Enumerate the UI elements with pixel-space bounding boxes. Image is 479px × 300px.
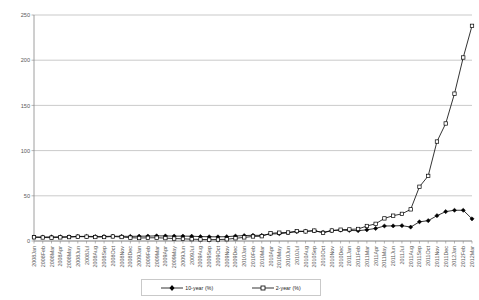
x-axis-tick-label: 2009Oct [215, 246, 221, 267]
x-axis-tick-label: 2008Apr [57, 246, 63, 267]
x-axis-tick-label: 2008May [66, 246, 72, 268]
x-axis-tick-label: 2011Oct [425, 246, 431, 266]
x-axis-tick-label: 2009May [171, 246, 177, 268]
x-axis-tick-label: 2009Dec [232, 246, 238, 268]
data-point-marker [321, 231, 324, 234]
x-axis-tick-label: 2008Sep [101, 246, 107, 268]
data-point-marker [146, 236, 149, 239]
data-point-marker [199, 238, 202, 241]
x-axis-tick-label: 2011Jun [390, 246, 396, 266]
data-point-marker [225, 238, 228, 241]
data-point-marker [409, 208, 412, 211]
x-axis-tick-label: 2010Aug [303, 246, 309, 268]
x-axis-tick-label: 2008Jun [75, 246, 81, 267]
data-point-marker [85, 235, 88, 238]
x-axis-tick-label: 2010May [276, 246, 282, 268]
x-axis-tick-label: 2011Aug [408, 246, 414, 267]
y-axis-tick-label: 100 [21, 148, 30, 154]
data-point-marker [234, 237, 237, 240]
x-axis-tick-label: 2010Apr [268, 246, 274, 267]
data-point-marker [444, 122, 447, 125]
data-point-marker [190, 237, 193, 240]
x-axis-tick-label: 2010Sep [311, 246, 317, 268]
data-point-marker [94, 235, 97, 238]
data-point-marker [120, 235, 123, 238]
x-axis-tick-label: 2008Mar [49, 246, 55, 267]
x-axis-tick-label: 2012Jan [451, 246, 457, 267]
data-point-marker [59, 236, 62, 239]
data-point-marker [304, 230, 307, 233]
legend-item-2-year[interactable]: 2-year (%) [252, 284, 301, 292]
data-point-marker [453, 92, 456, 95]
x-axis-tick-label: 2010Jan [241, 246, 247, 267]
x-axis-tick-label: 2009Nov [224, 246, 230, 268]
x-axis-tick-label: 2011Dec [443, 246, 449, 267]
x-axis-tick-label: 2010Feb [250, 246, 256, 267]
x-axis-tick-label: 2010Jul [294, 246, 300, 265]
legend-label-2-year: 2-year (%) [276, 285, 301, 291]
data-point-marker [41, 236, 44, 239]
data-point-marker [313, 229, 316, 232]
y-axis-tick-label: 200 [21, 57, 30, 63]
data-point-marker [208, 238, 211, 241]
data-point-marker [470, 24, 473, 27]
x-axis-tick-label: 2008Dec [127, 246, 133, 268]
x-axis-tick-label: 2009Jun [180, 246, 186, 267]
x-axis-tick-label: 2012Feb [460, 246, 466, 267]
line-chart-plot: 0501001502002502008Jan2008Feb2008Mar2008… [0, 0, 479, 300]
x-axis-tick-label: 2010Nov [329, 246, 335, 268]
data-point-marker [356, 227, 359, 230]
x-axis-tick-label: 2012Mar [469, 246, 475, 267]
y-axis-tick-label: 50 [24, 193, 30, 199]
x-axis-tick-label: 2010Mar [259, 246, 265, 267]
data-point-marker [102, 235, 105, 238]
x-axis-tick-label: 2008Aug [92, 246, 98, 268]
data-point-marker [137, 236, 140, 239]
x-axis-tick-label: 2008Jul [84, 246, 90, 265]
legend-label-10-year: 10-year (%) [185, 285, 213, 291]
chart-legend: 10-year (%) 2-year (%) [141, 279, 321, 296]
data-point-marker [348, 228, 351, 231]
data-point-marker [295, 229, 298, 232]
data-point-marker [418, 185, 421, 188]
x-axis-tick-label: 2011Jan [346, 246, 352, 266]
x-axis-tick-label: 2008Feb [40, 246, 46, 267]
x-axis-tick-label: 2011Jul [399, 246, 405, 264]
data-point-marker [155, 236, 158, 239]
x-axis-tick-label: 2008Oct [110, 246, 116, 267]
data-point-marker [269, 232, 272, 235]
x-axis-tick-label: 2011Apr [373, 246, 379, 266]
legend-marker-filled-diamond-icon [161, 284, 183, 292]
x-axis-tick-label: 2009Apr [162, 246, 168, 267]
x-axis-tick-label: 2009Mar [154, 246, 160, 267]
data-point-marker [76, 235, 79, 238]
x-axis-tick-label: 2009Feb [145, 246, 151, 267]
x-axis-tick-label: 2011Sep [416, 246, 422, 267]
x-axis-tick-label: 2008Nov [119, 246, 125, 268]
x-axis-tick-label: 2009Sep [206, 246, 212, 268]
data-point-marker [383, 217, 386, 220]
data-point-marker [251, 235, 254, 238]
data-point-marker [278, 231, 281, 234]
x-axis-tick-label: 2011Nov [434, 246, 440, 267]
x-axis-tick-label: 2009Aug [197, 246, 203, 268]
data-point-marker [365, 224, 368, 227]
legend-item-10-year[interactable]: 10-year (%) [161, 284, 213, 292]
data-point-marker [260, 235, 263, 238]
x-axis-tick-label: 2011Mar [364, 246, 370, 267]
x-axis-tick-label: 2011Feb [355, 246, 361, 267]
data-point-marker [435, 140, 438, 143]
data-point-marker [32, 236, 35, 239]
data-point-marker [462, 56, 465, 59]
data-point-marker [400, 212, 403, 215]
x-axis-tick-label: 2010Oct [320, 246, 326, 267]
y-axis-tick-label: 250 [21, 12, 30, 18]
data-point-marker [67, 235, 70, 238]
y-axis-tick-label: 150 [21, 103, 30, 109]
x-axis-tick-label: 2010Jun [285, 246, 291, 267]
data-point-marker [50, 236, 53, 239]
data-point-marker [164, 236, 167, 239]
x-axis-tick-label: 2009Jul [189, 246, 195, 265]
data-point-marker [286, 231, 289, 234]
data-point-marker [330, 229, 333, 232]
